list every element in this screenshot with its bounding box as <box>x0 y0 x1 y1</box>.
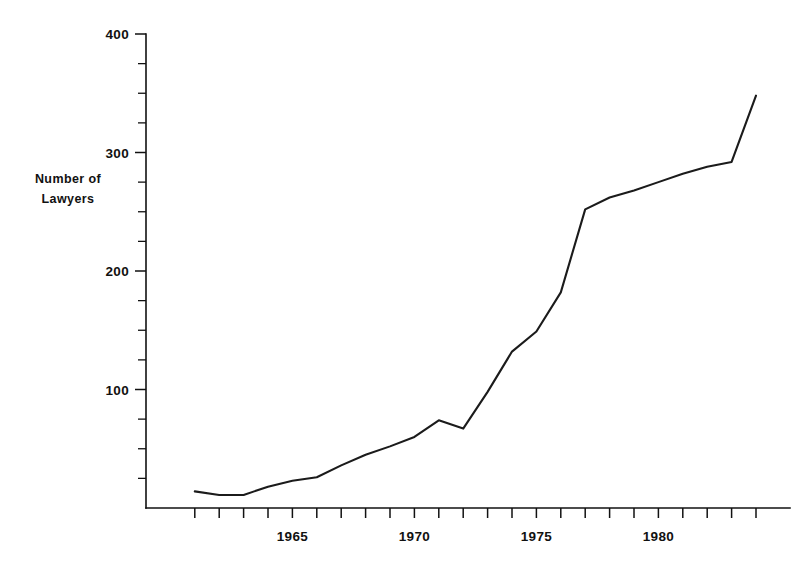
line-chart: Number of Lawyers 100200300400 196519701… <box>0 0 804 565</box>
x-axis-tick-label: 1975 <box>521 529 552 544</box>
y-axis-tick-label: 200 <box>106 264 129 279</box>
chart-container: Number of Lawyers 100200300400 196519701… <box>0 0 804 565</box>
y-axis-title-line-2: Lawyers <box>42 192 95 206</box>
data-series-line <box>195 96 756 495</box>
axes <box>146 34 790 508</box>
y-axis-title-line-1: Number of <box>35 172 102 186</box>
y-axis-tick-labels: 100200300400 <box>106 27 129 398</box>
x-axis-tick-label: 1970 <box>399 529 430 544</box>
y-axis-tick-label: 400 <box>106 27 129 42</box>
x-axis-tick-labels: 1965197019751980 <box>277 529 674 544</box>
y-axis-tick-label: 300 <box>106 146 129 161</box>
x-axis-ticks <box>195 508 756 518</box>
y-axis-title: Number of Lawyers <box>35 172 102 206</box>
y-axis-tick-label: 100 <box>106 383 129 398</box>
x-axis-tick-label: 1965 <box>277 529 308 544</box>
y-axis-ticks <box>135 34 146 478</box>
x-axis-tick-label: 1980 <box>643 529 674 544</box>
